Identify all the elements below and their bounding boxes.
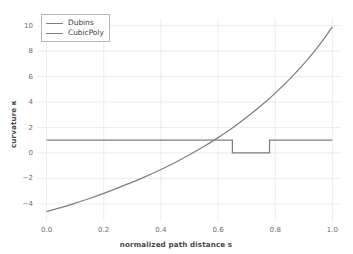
y-tick-label: 4 xyxy=(16,98,33,106)
x-tick-label: 0.8 xyxy=(270,226,281,234)
legend-swatch-cubicpoly xyxy=(46,33,63,34)
y-tick-label: −2 xyxy=(16,174,33,182)
y-tick-label: 8 xyxy=(16,47,33,55)
grid-lines xyxy=(38,18,341,221)
y-tick-label: −4 xyxy=(16,200,33,208)
y-tick-label: 6 xyxy=(16,73,33,81)
x-tick-label: 0.6 xyxy=(212,226,223,234)
legend-label-dubins: Dubins xyxy=(68,18,94,28)
x-tick-label: 0.4 xyxy=(155,226,166,234)
y-tick-label: 2 xyxy=(16,124,33,132)
legend-swatch-dubins xyxy=(46,23,63,24)
x-tick-label: 1.0 xyxy=(327,226,338,234)
series-line-cubicpoly xyxy=(47,27,333,212)
x-tick-label: 0.0 xyxy=(41,226,52,234)
series-line-dubins xyxy=(47,140,333,153)
y-axis-title: curvature κ xyxy=(9,100,18,148)
y-tick-label: 0 xyxy=(16,149,33,157)
chart-legend: Dubins CubicPoly xyxy=(41,14,110,42)
legend-label-cubicpoly: CubicPoly xyxy=(68,28,104,38)
data-series xyxy=(47,27,333,212)
x-tick-label: 0.2 xyxy=(98,226,109,234)
legend-entry-dubins: Dubins xyxy=(46,18,104,28)
chart-figure: 0.00.20.40.60.81.0 1086420−2−4 normalize… xyxy=(0,0,353,254)
x-axis-title: normalized path distance s xyxy=(120,240,232,249)
legend-entry-cubicpoly: CubicPoly xyxy=(46,28,104,38)
y-tick-label: 10 xyxy=(16,22,33,30)
